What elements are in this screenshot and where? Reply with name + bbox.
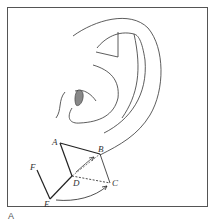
panel-label: A	[8, 211, 14, 221]
point-label-a: A	[51, 137, 58, 147]
point-label-e: E	[43, 199, 50, 209]
ear-outline	[56, 18, 161, 155]
point-label-c: C	[112, 178, 119, 188]
point-label-f: F	[29, 162, 36, 172]
point-label-d: D	[72, 178, 80, 188]
shaded-region	[75, 90, 83, 106]
ear-diagram: A B C D E F	[0, 0, 216, 223]
point-label-b: B	[98, 144, 104, 154]
